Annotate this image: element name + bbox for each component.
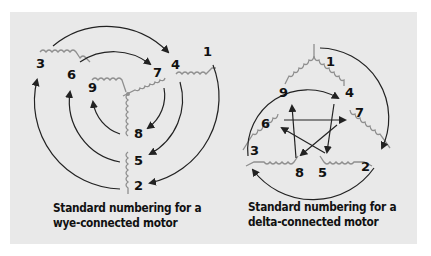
delta-terminal-8: 8 bbox=[295, 165, 304, 180]
wye-terminal-4: 4 bbox=[171, 57, 180, 72]
delta-terminal-5: 5 bbox=[318, 165, 327, 180]
wye-coil-center-8 bbox=[126, 94, 128, 136]
wye-arrow-6-to-7 bbox=[80, 52, 150, 64]
delta-terminal-2: 2 bbox=[361, 159, 370, 174]
delta-caption-line2: delta-connected motor bbox=[248, 215, 396, 230]
delta-arrow-8-to-9 bbox=[292, 106, 296, 158]
wye-arrow-3-to-4 bbox=[53, 26, 168, 52]
wye-coil-9-center bbox=[92, 78, 126, 92]
wye-caption-line1: Standard numbering for a bbox=[53, 201, 201, 216]
delta-terminal-3: 3 bbox=[250, 143, 259, 158]
wye-arrow-4-to-5 bbox=[150, 82, 183, 154]
delta-coil-1-9 bbox=[285, 56, 314, 84]
wye-arrow-2-to-3 bbox=[34, 80, 120, 189]
wye-terminal-6: 6 bbox=[67, 67, 76, 82]
wye-terminal-7: 7 bbox=[153, 65, 162, 80]
wye-caption: Standard numbering for a wye-connected m… bbox=[53, 201, 201, 231]
wye-arrow-8-to-9 bbox=[93, 102, 120, 134]
delta-caption: Standard numbering for a delta-connected… bbox=[248, 200, 396, 230]
delta-terminal-7: 7 bbox=[355, 105, 364, 120]
wye-arrow-7-to-8 bbox=[148, 88, 165, 128]
wye-terminal-1: 1 bbox=[203, 44, 212, 59]
wye-terminal-9: 9 bbox=[88, 80, 97, 95]
delta-diagram: 1 9 4 7 6 3 8 5 2 bbox=[243, 44, 390, 200]
delta-caption-line1: Standard numbering for a bbox=[248, 200, 396, 215]
wye-terminal-3: 3 bbox=[36, 56, 45, 71]
delta-terminal-9: 9 bbox=[279, 85, 288, 100]
delta-arrow-7-to-8 bbox=[301, 125, 337, 155]
delta-terminal-6: 6 bbox=[261, 116, 270, 131]
wye-diagram: 3 6 9 7 4 1 8 5 2 bbox=[34, 26, 219, 194]
wye-arrow-1-to-2 bbox=[150, 65, 219, 183]
wye-terminal-8: 8 bbox=[134, 126, 143, 141]
wye-coil-4-1 bbox=[176, 68, 216, 74]
delta-arrow-2-to-3 bbox=[253, 168, 374, 200]
delta-terminal-1: 1 bbox=[326, 54, 335, 69]
wye-terminal-5: 5 bbox=[134, 153, 143, 168]
wye-coil-5-2 bbox=[126, 152, 128, 194]
delta-terminal-4: 4 bbox=[345, 85, 354, 100]
wye-arrow-5-to-6 bbox=[69, 92, 120, 162]
wye-terminal-2: 2 bbox=[134, 178, 143, 193]
wye-caption-line2: wye-connected motor bbox=[53, 216, 201, 231]
